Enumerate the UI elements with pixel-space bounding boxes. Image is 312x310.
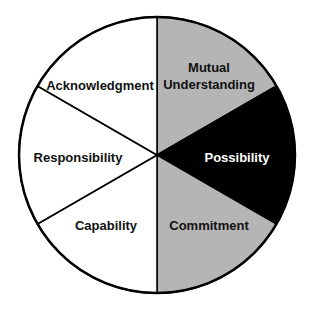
label-understanding: Understanding (163, 77, 255, 92)
wheel-diagram: Mutual Understanding Possibility Commitm… (0, 0, 312, 310)
label-mutual: Mutual (188, 60, 230, 75)
label-responsibility: Responsibility (34, 150, 124, 165)
label-commitment: Commitment (169, 218, 249, 233)
label-possibility: Possibility (204, 150, 270, 165)
label-acknowledgment: Acknowledgment (46, 78, 154, 93)
label-capability: Capability (75, 218, 138, 233)
